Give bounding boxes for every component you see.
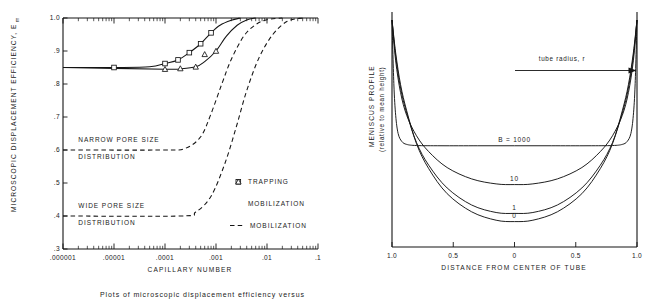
left-curves xyxy=(63,18,303,216)
right-curve-label-3: 0 xyxy=(512,212,516,219)
left-y-ticks xyxy=(63,18,68,249)
left-y-axis-title: MICROSCOPIC DISPLACEMENT EFFICIENCY, E xyxy=(10,24,17,212)
left-x-tick-label: .000001 xyxy=(50,254,76,261)
right-y-axis-title-line1: MENISCUS PROFILE xyxy=(368,65,375,147)
left-x-tick-labels: .000001.00001.0001.001.01.1 xyxy=(50,254,321,261)
figure-caption: Plots of microscopic displacement effici… xyxy=(100,291,305,299)
left-y-tick-label: .9 xyxy=(54,47,60,54)
left-x-axis-title: CAPILLARY NUMBER xyxy=(148,266,233,273)
left-x-tick-label: .0001 xyxy=(156,254,174,261)
left-marker-square xyxy=(187,50,192,55)
legend-label-mobilization-marker: MOBILIZATION xyxy=(248,200,305,207)
left-y-tick-label: .3 xyxy=(54,245,60,252)
left-annotations: NARROW PORE SIZEDISTRIBUTIONWIDE PORE SI… xyxy=(78,136,159,226)
left-annotation-1: DISTRIBUTION xyxy=(78,153,135,160)
left-marker-square xyxy=(112,65,117,70)
left-y-tick-label: .7 xyxy=(54,113,60,120)
left-y-axis-title-subscript: m xyxy=(14,17,20,22)
left-y-tick-label: .8 xyxy=(54,80,60,87)
left-x-tick-label: .1 xyxy=(315,254,321,261)
left-legend: TRAPPING MOBILIZATION MOBILIZATION xyxy=(230,178,307,229)
right-curve-label-1: 10 xyxy=(510,175,519,182)
left-y-tick-label: 1.0 xyxy=(50,14,60,21)
left-marker-square xyxy=(163,61,168,66)
left-marker-square xyxy=(198,41,203,46)
left-data-markers xyxy=(112,31,219,72)
tube-radius-annotation: tube radius, r xyxy=(515,55,637,74)
left-x-minor-ticks xyxy=(78,18,315,249)
left-annotation-3: DISTRIBUTION xyxy=(78,219,135,226)
figure-canvas: .3.4.5.6.7.8.91.0 .000001.00001.0001.001… xyxy=(0,0,653,307)
right-x-tick-label: 0.5 xyxy=(448,252,458,259)
left-y-tick-label: .4 xyxy=(54,212,60,219)
right-curve-label-0: B = 1000 xyxy=(498,136,531,143)
left-curve-2 xyxy=(63,18,282,150)
right-curve-label-2: 1 xyxy=(512,204,516,211)
left-x-tick-label: .001 xyxy=(209,254,223,261)
figure-root: .3.4.5.6.7.8.91.0 .000001.00001.0001.001… xyxy=(0,0,653,307)
right-curve-3 xyxy=(392,20,637,222)
chart-meniscus-profile: 1.00.500.51.0 MENISCUS PROFILE (relative… xyxy=(368,12,642,271)
left-curve-1 xyxy=(63,18,256,69)
tube-radius-label: tube radius, r xyxy=(539,55,586,62)
left-x-tick-label: .00001 xyxy=(103,254,125,261)
left-y-tick-label: .6 xyxy=(54,146,60,153)
right-x-tick-label: 1.0 xyxy=(632,252,642,259)
legend-label-trapping: TRAPPING xyxy=(248,178,289,185)
right-curve-labels: B = 10001010 xyxy=(498,136,531,219)
right-x-tick-label: 0.5 xyxy=(571,252,581,259)
right-x-axis-title: DISTANCE FROM CENTER OF TUBE xyxy=(441,264,587,271)
left-marker-square xyxy=(176,58,181,63)
right-curves xyxy=(392,20,637,222)
left-marker-square xyxy=(209,31,214,36)
right-x-tick-label: 1.0 xyxy=(387,252,397,259)
chart-displacement-efficiency: .3.4.5.6.7.8.91.0 .000001.00001.0001.001… xyxy=(10,14,321,273)
left-annotation-2: WIDE PORE SIZE xyxy=(78,202,145,209)
left-y-tick-labels: .3.4.5.6.7.8.91.0 xyxy=(50,14,60,252)
legend-label-mobilization-dashed: MOBILIZATION xyxy=(250,222,307,229)
left-annotation-0: NARROW PORE SIZE xyxy=(78,136,159,143)
right-y-axis-title-line2: (relative to mean height) xyxy=(378,67,386,152)
right-x-tick-labels: 1.00.500.51.0 xyxy=(387,252,642,259)
right-curve-1 xyxy=(392,20,637,185)
right-x-ticks xyxy=(392,242,637,247)
left-y-tick-label: .5 xyxy=(54,179,60,186)
left-x-tick-label: .01 xyxy=(262,254,272,261)
left-marker-triangle xyxy=(202,52,207,57)
right-x-tick-label: 0 xyxy=(512,252,516,259)
right-curve-0 xyxy=(392,20,637,146)
left-curve-3 xyxy=(63,18,303,216)
left-curve-0 xyxy=(63,18,240,68)
